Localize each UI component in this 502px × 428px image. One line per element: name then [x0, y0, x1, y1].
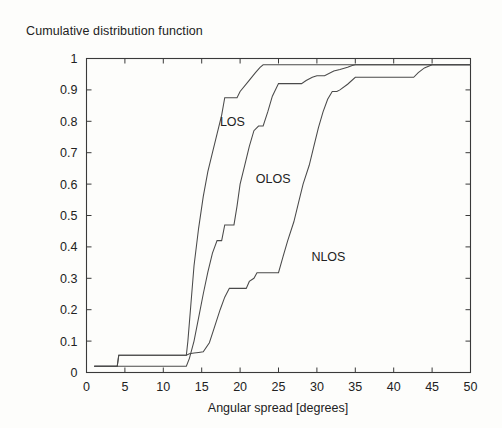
- figure-container: Cumulative distribution function 0510152…: [0, 0, 502, 428]
- x-tick-label: 0: [83, 380, 90, 394]
- y-tick-label: 0.5: [60, 209, 77, 223]
- x-tick-label: 50: [464, 380, 478, 394]
- cdf-plot: 05101520253035404550 00.10.20.30.40.50.6…: [0, 0, 502, 428]
- y-tick-labels: 00.10.20.30.40.50.60.70.80.91: [60, 52, 77, 380]
- x-tick-label: 10: [156, 380, 170, 394]
- curve-olos: [94, 65, 470, 366]
- y-tick-label: 0.7: [60, 146, 77, 160]
- y-tick-label: 0.4: [60, 240, 77, 254]
- series-annotations: LOSOLOSNLOS: [220, 115, 346, 264]
- y-tick-label: 0.2: [60, 303, 77, 317]
- x-axis-title: Angular spread [degrees]: [208, 401, 348, 415]
- x-tick-label: 30: [310, 380, 324, 394]
- x-tick-label: 25: [272, 380, 286, 394]
- y-tick-label: 0.8: [60, 115, 77, 129]
- x-tick-labels: 05101520253035404550: [83, 380, 477, 394]
- series-label-los: LOS: [220, 115, 245, 129]
- x-tick-label: 45: [425, 380, 439, 394]
- series-label-nlos: NLOS: [311, 250, 345, 264]
- x-tick-label: 15: [195, 380, 209, 394]
- y-tick-label: 0: [71, 366, 78, 380]
- curve-los: [94, 65, 470, 366]
- y-tick-label: 0.1: [60, 335, 77, 349]
- x-tick-label: 20: [233, 380, 247, 394]
- x-tick-label: 35: [348, 380, 362, 394]
- y-tick-label: 0.3: [60, 272, 77, 286]
- plot-frame: [87, 59, 471, 373]
- series-label-olos: OLOS: [256, 172, 291, 186]
- series-curves: [94, 65, 470, 366]
- y-tick-label: 0.6: [60, 178, 77, 192]
- y-tick-label: 1: [71, 52, 78, 66]
- y-tick-label: 0.9: [60, 83, 77, 97]
- curve-nlos: [94, 65, 470, 366]
- x-tick-label: 40: [387, 380, 401, 394]
- x-tick-label: 5: [121, 380, 128, 394]
- axis-ticks: [87, 59, 471, 373]
